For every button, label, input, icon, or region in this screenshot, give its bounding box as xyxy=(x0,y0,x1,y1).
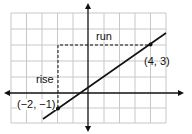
rise-label: rise xyxy=(36,74,54,85)
point2-label: (4, 3) xyxy=(144,56,170,67)
point-neg2-neg1 xyxy=(56,107,60,111)
axis-arrows xyxy=(4,3,184,132)
point-4-3 xyxy=(149,43,153,47)
coordinate-plane xyxy=(0,0,192,134)
axes xyxy=(6,5,182,130)
point1-label: (−2, −1) xyxy=(17,99,56,110)
run-label: run xyxy=(96,31,112,42)
